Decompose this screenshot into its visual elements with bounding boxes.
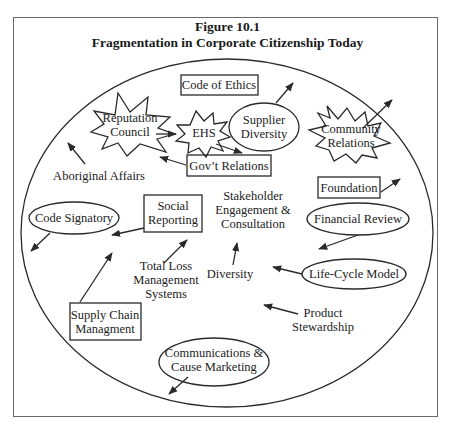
communications-line1: Communications &: [165, 346, 263, 360]
aboriginal-affairs-label: Aboriginal Affairs: [53, 169, 145, 183]
supply-chain-label: Supply Chain Managment: [71, 308, 139, 336]
stakeholder-line2: Engagement &: [215, 203, 290, 217]
arrow-supplier-diversity: [276, 83, 293, 103]
arrow-ehs-to-govt: [216, 144, 242, 153]
community-relations-line2: Relations: [321, 136, 381, 150]
arrow-aboriginal-affairs: [68, 143, 85, 164]
code-of-ethics-label: Code of Ethics: [182, 78, 256, 92]
supply-chain-line1: Supply Chain: [71, 308, 139, 322]
total-loss-line2: Management: [133, 273, 198, 287]
social-reporting-line1: Social: [148, 199, 198, 213]
govt-relations-label: Gov’t Relations: [189, 159, 268, 173]
arrow-govt-to-reputation: [160, 157, 186, 165]
ehs-label: EHS: [192, 126, 216, 140]
arrow-code-signatory: [31, 233, 50, 251]
foundation-label: Foundation: [321, 181, 378, 195]
code-signatory-label: Code Signatory: [35, 211, 113, 225]
stakeholder-engagement-label: Stakeholder Engagement & Consultation: [215, 189, 290, 231]
supplier-diversity-label: Supplier Diversity: [241, 113, 288, 141]
product-stewardship-line2: Stewardship: [292, 320, 354, 334]
reputation-council-line1: Reputation: [103, 111, 158, 125]
arrow-supply-chain: [80, 253, 112, 302]
arrow-diversity: [233, 243, 237, 265]
community-relations-line1: Community: [321, 122, 381, 136]
supply-chain-line2: Managment: [71, 322, 139, 336]
supplier-diversity-line2: Diversity: [241, 127, 288, 141]
arrow-social-reporting: [112, 228, 144, 235]
total-loss-line3: Systems: [133, 287, 198, 301]
product-stewardship-line1: Product: [292, 306, 354, 320]
social-reporting-line2: Reporting: [148, 213, 198, 227]
total-loss-label: Total Loss Management Systems: [133, 259, 198, 301]
reputation-council-line2: Council: [103, 125, 158, 139]
life-cycle-model-label: Life-Cycle Model: [309, 267, 399, 281]
total-loss-line1: Total Loss: [133, 259, 198, 273]
stakeholder-line3: Consultation: [215, 217, 290, 231]
reputation-council-label: Reputation Council: [103, 111, 158, 139]
community-relations-label: Community Relations: [321, 122, 381, 150]
supplier-diversity-line1: Supplier: [241, 113, 288, 127]
communications-line2: Cause Marketing: [165, 360, 263, 374]
communications-label: Communications & Cause Marketing: [165, 346, 263, 374]
arrow-foundation: [381, 179, 400, 192]
arrow-life-cycle-model: [273, 267, 302, 274]
diversity-label: Diversity: [207, 267, 254, 281]
arrow-communications: [169, 377, 188, 394]
financial-review-label: Financial Review: [314, 212, 402, 226]
product-stewardship-label: Product Stewardship: [292, 306, 354, 334]
social-reporting-label: Social Reporting: [148, 199, 198, 227]
stakeholder-line1: Stakeholder: [215, 189, 290, 203]
arrow-financial-review: [319, 235, 358, 249]
